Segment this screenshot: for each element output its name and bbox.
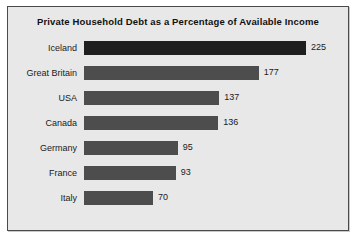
bar bbox=[84, 141, 178, 155]
category-label: Great Britain bbox=[8, 68, 77, 78]
bar bbox=[84, 116, 218, 130]
bar bbox=[84, 91, 219, 105]
category-label: Canada bbox=[8, 118, 77, 128]
bar-row: Germany95 bbox=[8, 135, 348, 160]
value-label: 93 bbox=[181, 168, 191, 177]
value-label: 136 bbox=[223, 118, 238, 127]
bar bbox=[84, 191, 153, 205]
value-label: 225 bbox=[311, 43, 326, 52]
bar-row: Canada136 bbox=[8, 110, 348, 135]
category-label: Germany bbox=[8, 143, 77, 153]
bar-row: Italy70 bbox=[8, 185, 348, 210]
bar-row: Iceland225 bbox=[8, 35, 348, 60]
chart-title: Private Household Debt as a Percentage o… bbox=[8, 16, 348, 27]
bar-row: USA137 bbox=[8, 85, 348, 110]
bar-wrapper: 177 bbox=[84, 66, 348, 80]
bar-wrapper: 70 bbox=[84, 191, 348, 205]
category-label: Italy bbox=[8, 193, 77, 203]
category-label: France bbox=[8, 168, 77, 178]
bar-wrapper: 93 bbox=[84, 166, 348, 180]
bar bbox=[84, 66, 259, 80]
category-label: USA bbox=[8, 93, 77, 103]
bar-wrapper: 137 bbox=[84, 91, 348, 105]
bar bbox=[84, 41, 306, 55]
bar-wrapper: 225 bbox=[84, 41, 348, 55]
value-label: 137 bbox=[224, 93, 239, 102]
chart-frame: Private Household Debt as a Percentage o… bbox=[7, 6, 349, 231]
bar-row: France93 bbox=[8, 160, 348, 185]
category-label: Iceland bbox=[8, 43, 77, 53]
bar-wrapper: 95 bbox=[84, 141, 348, 155]
bar bbox=[84, 166, 176, 180]
bar-wrapper: 136 bbox=[84, 116, 348, 130]
value-label: 70 bbox=[158, 193, 168, 202]
plot-area: Iceland225Great Britain177USA137Canada13… bbox=[8, 35, 348, 210]
value-label: 95 bbox=[183, 143, 193, 152]
value-label: 177 bbox=[264, 68, 279, 77]
bar-row: Great Britain177 bbox=[8, 60, 348, 85]
